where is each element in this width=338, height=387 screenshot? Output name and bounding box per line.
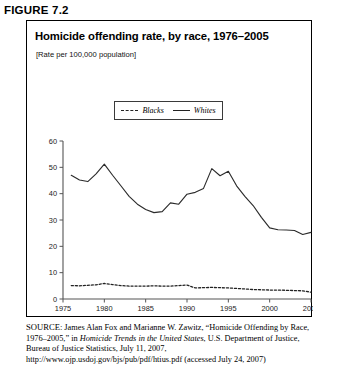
figure-box: Homicide offending rate, by race, 1976–2… (26, 20, 312, 317)
series-line-whites (71, 164, 311, 234)
y-tick-label: 50 (49, 163, 57, 172)
x-tick-label: 2000 (261, 304, 277, 313)
y-tick-label: 20 (49, 242, 57, 251)
x-axis-ticks: 1975198019851990199520002005 (55, 299, 313, 313)
y-tick-label: 10 (49, 268, 57, 277)
y-tick-label: 60 (49, 137, 57, 146)
y-tick-label: 30 (49, 216, 57, 225)
series-line-blacks (71, 283, 311, 292)
figure-label: FIGURE 7.2 (0, 0, 338, 19)
y-tick-label: 40 (49, 189, 57, 198)
source-italic-title: Homicide Trends in the United States (80, 334, 204, 343)
x-tick-label: 1995 (220, 304, 236, 313)
x-tick-label: 1975 (55, 304, 71, 313)
x-tick-label: 1990 (179, 304, 195, 313)
y-axis-ticks: 0102030405060 (49, 137, 63, 304)
source-prefix: SOURCE: (26, 322, 62, 332)
line-chart-plot: 0102030405060 19751980198519901995200020… (27, 21, 313, 318)
x-tick-label: 1985 (137, 304, 153, 313)
y-tick-label: 0 (53, 295, 57, 304)
source-note: SOURCE: James Alan Fox and Marianne W. Z… (26, 322, 314, 365)
x-tick-label: 1980 (96, 304, 112, 313)
chart-series (71, 164, 311, 292)
x-tick-label: 2005 (303, 304, 313, 313)
